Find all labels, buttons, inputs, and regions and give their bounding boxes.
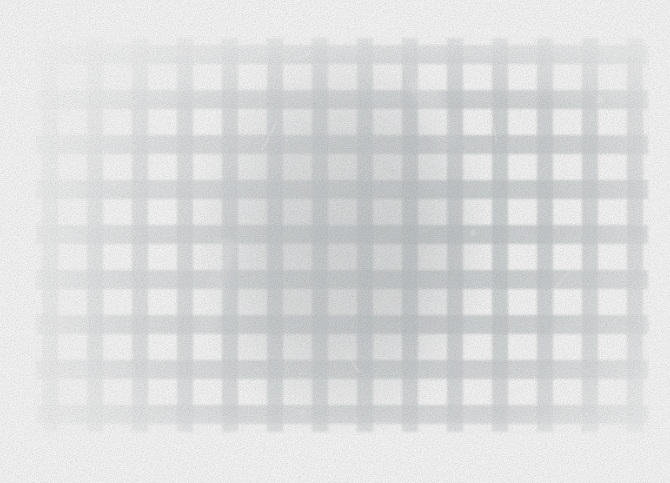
lattice-bar-vertical [627,38,643,432]
crop-mask-top [0,0,670,36]
lattice-bar-vertical [87,38,103,432]
crop-mask-bottom [0,434,670,483]
lattice-bar-horizontal [36,315,648,334]
crop-mask-left [0,0,34,483]
lattice-bar-vertical [492,38,508,432]
lattice-bar-horizontal [36,360,648,379]
lattice-bar-horizontal [36,135,648,154]
lattice-bar-vertical [447,38,463,432]
lattice-bar-horizontal [36,270,648,289]
lattice-bar-vertical [132,38,148,432]
lattice-bar-horizontal [36,90,648,109]
lattice-bar-horizontal [36,45,648,64]
lattice-bar-vertical [357,38,373,432]
lattice-bar-vertical [537,38,553,432]
lattice-horizontal-bars [0,0,670,483]
lattice-wrapper [0,0,670,483]
lattice-bar-vertical [402,38,418,432]
lattice-bar-vertical [267,38,283,432]
crop-mask-right [650,0,670,483]
lattice-bar-vertical [312,38,328,432]
photograph-canvas [0,0,670,483]
lattice-bar-vertical [222,38,238,432]
lattice-bar-vertical [177,38,193,432]
lattice-bar-horizontal [36,405,648,424]
lattice-bar-horizontal [36,225,648,244]
lattice-bar-horizontal [36,180,648,199]
lattice-vertical-bars [0,0,670,483]
lattice-bar-vertical [42,38,58,432]
lattice-bar-vertical [582,38,598,432]
